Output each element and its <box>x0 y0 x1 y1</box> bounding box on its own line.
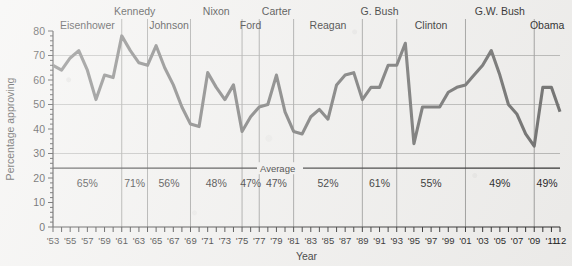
x-tick-label: '63 <box>133 235 145 246</box>
president-avg-g-bush: 61% <box>369 177 390 189</box>
presidential-approval-chart: 01020304050607080Percentage approving'53… <box>0 0 572 266</box>
president-name-clinton: Clinton <box>415 19 448 31</box>
x-tick-label: '75 <box>236 235 248 246</box>
y-tick-label: 80 <box>33 25 45 37</box>
president-name-ford: Ford <box>240 19 262 31</box>
x-tick-label: '79 <box>270 235 282 246</box>
average-label: Average <box>260 163 295 174</box>
president-avg-obama: 49% <box>537 177 558 189</box>
y-tick-label: 70 <box>33 49 45 61</box>
y-tick-label: 40 <box>33 123 45 135</box>
x-tick-label: '85 <box>322 235 334 246</box>
chart-svg: 01020304050607080Percentage approving'53… <box>0 0 572 266</box>
president-name-g-bush: G. Bush <box>361 5 399 17</box>
x-tick-label: '99 <box>442 235 454 246</box>
x-tick-label: '81 <box>287 235 299 246</box>
president-name-nixon: Nixon <box>203 5 230 17</box>
x-tick-label: '87 <box>339 235 351 246</box>
president-name-obama: Obama <box>530 19 565 31</box>
president-avg-g-w-bush: 49% <box>489 177 510 189</box>
president-name-g-w-bush: G.W. Bush <box>475 5 525 17</box>
x-tick-label: '71 <box>201 235 213 246</box>
x-tick-label: '65 <box>150 235 162 246</box>
x-tick-label: '83 <box>305 235 317 246</box>
president-avg-ford: 47% <box>240 177 261 189</box>
president-avg-eisenhower: 65% <box>77 177 98 189</box>
x-axis-title: Year <box>296 250 318 262</box>
x-tick-label: '57 <box>81 235 93 246</box>
president-avg-reagan: 52% <box>317 177 338 189</box>
x-tick-label: '69 <box>184 235 196 246</box>
x-tick-label: '77 <box>253 235 265 246</box>
y-tick-label: 50 <box>33 98 45 110</box>
x-tick-label: '05 <box>494 235 506 246</box>
x-tick-label: '93 <box>391 235 403 246</box>
x-tick-label: '07 <box>511 235 523 246</box>
x-tick-label: '59 <box>98 235 110 246</box>
x-tick-label: '61 <box>116 235 128 246</box>
president-name-carter: Carter <box>262 5 292 17</box>
x-tick-label: '67 <box>167 235 179 246</box>
x-tick-label: '09 <box>528 235 540 246</box>
president-avg-clinton: 55% <box>421 177 442 189</box>
president-avg-nixon: 48% <box>206 177 227 189</box>
president-avg-kennedy: 71% <box>124 177 145 189</box>
president-name-reagan: Reagan <box>310 19 347 31</box>
president-name-eisenhower: Eisenhower <box>60 19 115 31</box>
y-tick-label: 10 <box>33 196 45 208</box>
y-tick-label: 20 <box>33 172 45 184</box>
x-tick-label: '91 <box>373 235 385 246</box>
x-tick-label: '95 <box>408 235 420 246</box>
x-tick-label: '97 <box>425 235 437 246</box>
president-avg-johnson: 56% <box>159 177 180 189</box>
y-tick-label: 60 <box>33 74 45 86</box>
y-tick-label: 30 <box>33 147 45 159</box>
x-tick-label: '89 <box>356 235 368 246</box>
x-tick-label: '01 <box>459 235 471 246</box>
x-tick-label: '12 <box>554 235 566 246</box>
x-tick-label: '53 <box>47 235 59 246</box>
president-avg-carter: 47% <box>266 177 287 189</box>
y-tick-label: 0 <box>39 221 45 233</box>
y-axis-title: Percentage approving <box>4 77 16 180</box>
president-name-kennedy: Kennedy <box>114 5 156 17</box>
x-tick-label: '73 <box>219 235 231 246</box>
president-name-johnson: Johnson <box>149 19 189 31</box>
approval-series-line <box>53 36 560 146</box>
x-tick-label: '55 <box>64 235 76 246</box>
x-tick-label: '03 <box>476 235 488 246</box>
